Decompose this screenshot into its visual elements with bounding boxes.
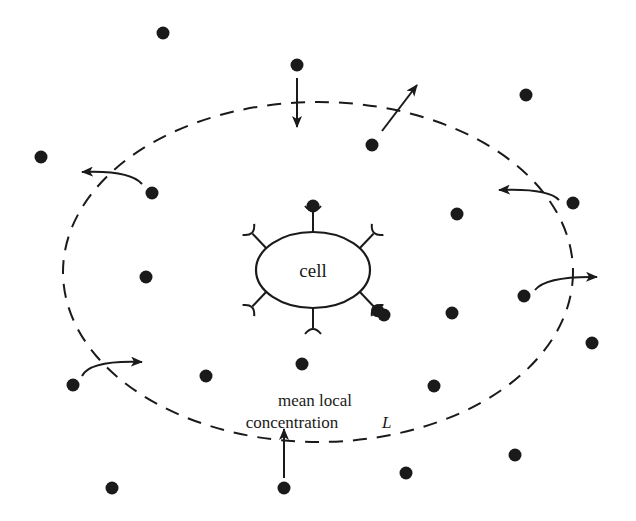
ligand-dot bbox=[146, 187, 159, 200]
ligand-dot bbox=[509, 449, 522, 462]
ligand-dot bbox=[291, 59, 304, 72]
ligand-dot bbox=[35, 151, 48, 164]
free-receptor bbox=[360, 224, 384, 248]
bound-receptor bbox=[305, 200, 321, 233]
ligand-dot bbox=[451, 208, 464, 221]
bound-ligand-dot bbox=[307, 200, 320, 213]
ligand-dot bbox=[567, 197, 580, 210]
arrow-out-left-icon bbox=[82, 172, 142, 184]
ligand-dot bbox=[278, 482, 291, 495]
diagram-canvas: cell mean local concentration L bbox=[0, 0, 636, 521]
ligand-dot bbox=[446, 307, 459, 320]
ligand-dot bbox=[140, 271, 153, 284]
cell-ligand-diagram: cell mean local concentration L bbox=[0, 0, 636, 521]
region-label-line1: mean local bbox=[278, 391, 352, 410]
ligand-dot bbox=[296, 358, 309, 371]
arrow-in-lower-left-icon bbox=[82, 362, 142, 376]
ligand-dot bbox=[157, 27, 170, 40]
ligand-dot bbox=[200, 370, 213, 383]
arrow-out-right-lower-icon bbox=[535, 277, 597, 290]
free-receptor bbox=[243, 292, 267, 316]
free-receptor bbox=[305, 308, 321, 334]
ligand-dot bbox=[518, 290, 531, 303]
arrow-out-right-upper-icon bbox=[499, 190, 559, 200]
ligand-dot bbox=[106, 482, 119, 495]
region-label-text: concentration bbox=[246, 413, 339, 432]
free-receptor bbox=[243, 224, 267, 248]
region-label-line2: concentration bbox=[246, 413, 339, 432]
ligand-dot bbox=[586, 337, 599, 350]
cell-label: cell bbox=[299, 260, 326, 281]
ligand-dot bbox=[520, 89, 533, 102]
ligand-dot bbox=[400, 467, 413, 480]
concentration-symbol: L bbox=[381, 413, 391, 432]
ligand-dot bbox=[378, 309, 391, 322]
ligand-dot bbox=[67, 379, 80, 392]
ligand-dot bbox=[428, 380, 441, 393]
ligand-dot bbox=[366, 139, 379, 152]
